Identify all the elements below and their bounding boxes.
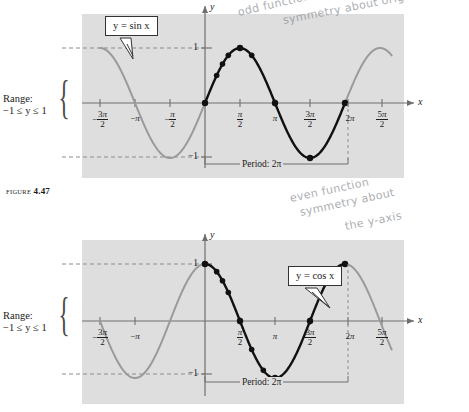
cosine-chart-svg: [0, 232, 469, 412]
sine-callout-label: y = sin x: [113, 20, 150, 31]
sine-xtick-3pi-2: 3π2: [301, 110, 319, 129]
figure-caption: FIGURE 4.47: [6, 186, 50, 196]
marked-point: [307, 318, 313, 324]
sine-callout: y = sin x: [105, 16, 158, 36]
cosine-xtick-neg-3pi-2: −3π2: [88, 328, 112, 347]
cosine-xtick-2pi: 2π: [341, 331, 359, 341]
sine-xtick-pi: π: [268, 113, 282, 123]
marked-point: [220, 278, 226, 284]
cosine-range-label: Range: −1 ≤ y ≤ 1: [3, 310, 47, 334]
figure-page: { Range: −1 ≤ y ≤ 1 1 −1 y x −3π2 −π −π2…: [0, 0, 469, 412]
cosine-range-brace: {: [59, 292, 70, 338]
sine-xtick-neg-pi: −π: [124, 113, 146, 123]
marked-point: [214, 73, 220, 79]
marked-point: [342, 261, 348, 267]
sine-range-label-line2: −1 ≤ y ≤ 1: [3, 105, 47, 116]
marked-point: [226, 290, 232, 296]
figure-caption-word: FIGURE: [6, 188, 31, 195]
sine-period-label: Period: 2π: [240, 159, 283, 169]
marked-point: [342, 100, 348, 106]
cosine-xtick-3pi-2: 3π2: [301, 328, 319, 347]
marked-point: [249, 53, 255, 59]
marked-point: [307, 155, 313, 161]
sine-x-axis-name: x: [418, 96, 422, 107]
marked-point: [226, 53, 232, 59]
cosine-xtick-pi-2: π2: [232, 328, 248, 347]
sine-range-label-line1: Range:: [3, 93, 33, 104]
cosine-xtick-neg-pi: −π: [124, 331, 146, 341]
cosine-y-top-label: 1: [183, 258, 198, 268]
cosine-period-label: Period: 2π: [240, 377, 283, 387]
marked-point: [272, 100, 278, 106]
sine-range-label: Range: −1 ≤ y ≤ 1: [3, 93, 47, 117]
sine-x-axis-arrow: [407, 100, 414, 106]
sine-xtick-5pi-2: 5π2: [373, 110, 391, 129]
cosine-y-axis-name: y: [210, 229, 214, 240]
marked-point: [261, 368, 267, 374]
sine-xtick-neg-3pi-2: −3π2: [88, 110, 112, 129]
cosine-x-axis-name: x: [418, 314, 422, 325]
sine-y-axis-name: y: [210, 1, 214, 12]
marked-point: [220, 61, 226, 67]
sine-chart-svg: [0, 0, 469, 180]
figure-caption-number: 4.47: [33, 186, 50, 196]
sine-range-brace: {: [59, 75, 70, 121]
cosine-xtick-pi: π: [268, 331, 282, 341]
cosine-y-bottom-label: −1: [180, 368, 198, 378]
cosine-xtick-5pi-2: 5π2: [373, 328, 391, 347]
cosine-range-label-line2: −1 ≤ y ≤ 1: [3, 322, 47, 333]
sin-curve-faded-right: [345, 48, 392, 103]
sine-panel: { Range: −1 ≤ y ≤ 1 1 −1 y x −3π2 −π −π2…: [0, 0, 469, 180]
marked-point: [237, 318, 243, 324]
sine-xtick-2pi: 2π: [341, 113, 359, 123]
marked-point: [202, 100, 208, 106]
cosine-panel: { Range: −1 ≤ y ≤ 1 1 −1 y x −3π2 −π π2 …: [0, 232, 469, 412]
sine-y-top-label: 1: [183, 42, 198, 52]
sine-xtick-pi-2: π2: [232, 110, 248, 129]
sine-xtick-neg-pi-2: −π2: [159, 110, 181, 129]
marked-point: [249, 347, 255, 353]
cosine-y-tick-marks: [201, 264, 212, 374]
cosine-callout: y = cos x: [288, 266, 342, 286]
cosine-x-axis-arrow: [407, 318, 414, 324]
marked-point: [237, 45, 243, 51]
sine-y-bottom-label: −1: [180, 151, 198, 161]
handwriting-bottom-line3: the y-axis: [344, 209, 403, 233]
cosine-callout-label: y = cos x: [296, 270, 334, 281]
cosine-range-label-line1: Range:: [3, 310, 33, 321]
marked-point: [202, 261, 208, 267]
cosine-y-axis-arrow: [202, 234, 208, 241]
sine-y-axis-arrow: [202, 6, 208, 13]
marked-point: [214, 269, 220, 275]
